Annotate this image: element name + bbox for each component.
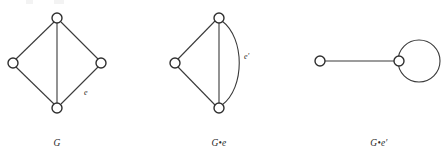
panel-g-dot-e-prime: G•e′ [315,40,440,148]
vertex-ge-bottom [214,103,224,113]
edge-g-left-bottom [16,67,54,104]
caption-g-dot-e-prime: G•e′ [370,138,388,148]
edge-g-top-left [16,22,54,59]
edge-g-right-bottom [61,67,98,104]
vertex-g-top [52,13,62,23]
vertex-gep-right [394,56,404,66]
vertex-ge-left [170,58,180,68]
vertex-g-left [8,58,18,68]
edge-ge-left-bottom [178,67,215,105]
edge-label-e: e [84,88,88,97]
caption-g-dot-e: G•e [211,138,226,148]
graph-diagram-canvas: e G e′ G•e G•e′ [0,0,445,158]
vertex-gep-left [315,56,325,66]
edge-g-top-right [61,22,98,59]
vertex-g-right [96,58,106,68]
edge-label-e-prime: e′ [244,52,250,61]
vertex-ge-top [214,13,224,23]
edge-ge-top-left [178,21,215,59]
panel-g: e G [8,13,106,148]
vertex-g-bottom [52,103,62,113]
edge-ge-top-bottom-arc [222,21,239,105]
caption-g: G [53,138,60,148]
panel-g-dot-e: e′ G•e [170,13,250,148]
figure-root: e G e′ G•e G•e′ [0,0,445,158]
